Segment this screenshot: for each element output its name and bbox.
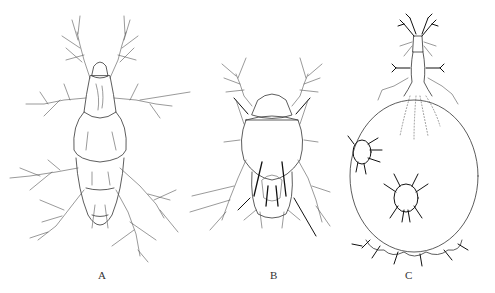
figure: A B C bbox=[0, 0, 495, 293]
mite-b-illustration bbox=[190, 58, 330, 236]
panel-label-a: A bbox=[98, 270, 106, 281]
panel-label-b: B bbox=[270, 270, 277, 281]
gravid-mite-c-illustration bbox=[348, 14, 478, 266]
panel-label-c: C bbox=[405, 270, 412, 281]
mite-a-illustration bbox=[10, 16, 190, 262]
panel-a-drawing bbox=[0, 0, 495, 293]
